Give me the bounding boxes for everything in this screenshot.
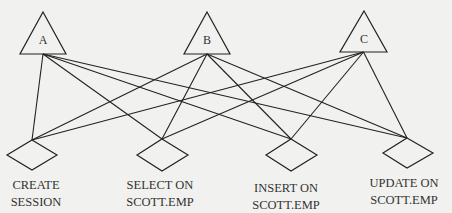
edge-c-p2 bbox=[162, 52, 364, 139]
privileges-layer: CREATESESSIONSELECT ONSCOTT.EMPINSERT ON… bbox=[7, 138, 439, 212]
role-label: C bbox=[360, 32, 368, 46]
privilege-label-line2: SESSION bbox=[11, 195, 62, 209]
privilege-p2: SELECT ONSCOTT.EMP bbox=[126, 139, 194, 209]
roles-layer: ABC bbox=[20, 11, 387, 54]
role-label: A bbox=[39, 33, 48, 47]
edge-b-p2 bbox=[162, 54, 207, 139]
privilege-label-line1: SELECT ON bbox=[127, 178, 194, 192]
privilege-diamond bbox=[137, 139, 188, 171]
diagram-canvas: ABC CREATESESSIONSELECT ONSCOTT.EMPINSER… bbox=[0, 0, 452, 213]
role-c: C bbox=[340, 11, 387, 52]
privilege-diamond bbox=[266, 139, 317, 171]
role-privilege-diagram: ABC CREATESESSIONSELECT ONSCOTT.EMPINSER… bbox=[0, 0, 452, 213]
edge-a-p3 bbox=[43, 54, 291, 139]
privilege-label-line1: UPDATE ON bbox=[369, 176, 438, 190]
privilege-label-line2: SCOTT.EMP bbox=[370, 193, 438, 207]
role-a: A bbox=[20, 12, 66, 54]
role-label: B bbox=[203, 33, 211, 47]
privilege-diamond bbox=[7, 140, 57, 170]
role-b: B bbox=[184, 12, 230, 54]
edges-layer bbox=[32, 52, 407, 140]
privilege-label-line1: CREATE bbox=[12, 178, 60, 192]
edge-c-p1 bbox=[32, 52, 364, 140]
privilege-p3: INSERT ONSCOTT.EMP bbox=[252, 139, 320, 212]
edge-a-p4 bbox=[43, 54, 407, 138]
privilege-label-line1: INSERT ON bbox=[254, 181, 318, 195]
edge-b-p1 bbox=[32, 54, 207, 140]
privilege-p1: CREATESESSION bbox=[7, 140, 61, 209]
privilege-label-line2: SCOTT.EMP bbox=[252, 198, 320, 212]
edge-a-p1 bbox=[32, 54, 43, 140]
edge-c-p4 bbox=[364, 52, 408, 138]
privilege-label-line2: SCOTT.EMP bbox=[126, 195, 194, 209]
privilege-p4: UPDATE ONSCOTT.EMP bbox=[369, 138, 438, 207]
privilege-diamond bbox=[383, 138, 433, 168]
edge-b-p3 bbox=[207, 54, 291, 139]
